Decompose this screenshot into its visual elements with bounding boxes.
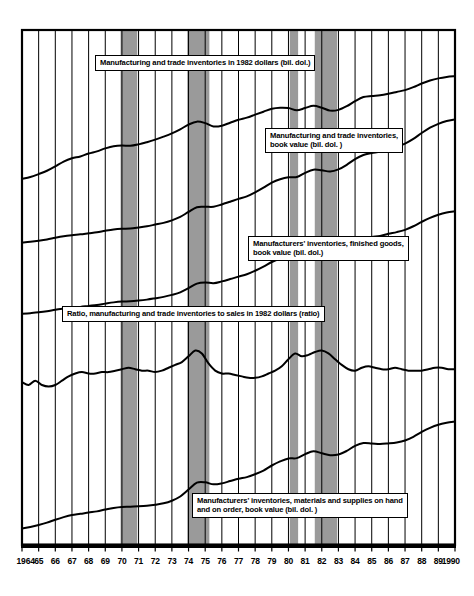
- x-axis-label-1968: 68: [84, 556, 93, 566]
- x-axis-label-1988: 88: [417, 556, 426, 566]
- x-axis-label-1975: 75: [201, 556, 210, 566]
- x-axis-label-1982: 82: [317, 556, 326, 566]
- x-axis-bar: [21, 544, 456, 549]
- x-axis-label-1979: 79: [267, 556, 276, 566]
- series-label-mfr-inv-materials-supplies: Manufacturers' inventories, materials an…: [192, 493, 408, 518]
- x-axis-label-1981: 81: [301, 556, 310, 566]
- inventory-chart-figure: 1964656667686970717273747576777879808182…: [0, 0, 474, 596]
- label-line: book value (bil. dol.): [253, 248, 404, 257]
- x-axis-label-1978: 78: [251, 556, 260, 566]
- x-axis-label-1990: 1990: [442, 556, 460, 566]
- x-axis-label-1985: 85: [367, 556, 376, 566]
- x-axis-label-1976: 76: [217, 556, 226, 566]
- recession-band-recession-1969-1970: [121, 30, 138, 545]
- x-axis-label-1969: 69: [101, 556, 110, 566]
- x-axis-label-1971: 71: [134, 556, 143, 566]
- x-axis-label-1980: 80: [284, 556, 293, 566]
- x-axis-label-1973: 73: [167, 556, 176, 566]
- x-axis-tick-marks: [22, 548, 455, 552]
- x-axis-label-1986: 86: [384, 556, 393, 566]
- x-axis-label-1970: 70: [117, 556, 126, 566]
- recession-band-recession-1980: [290, 30, 298, 545]
- label-line: and on order, book value (bil. dol. ): [197, 505, 403, 514]
- x-axis-label-1966: 66: [51, 556, 60, 566]
- x-axis-label-1974: 74: [184, 556, 193, 566]
- label-line: Manufacturing and trade inventories in 1…: [100, 58, 310, 67]
- vertical-gridlines-group: [22, 30, 455, 545]
- series-label-mfr-inv-finished-goods: Manufacturers' inventories, finished goo…: [248, 236, 409, 261]
- label-line: book value (bil. dol. ): [270, 140, 398, 149]
- label-line: Manufacturers' inventories, materials an…: [197, 496, 403, 505]
- series-label-inventory-to-sales-ratio: Ratio, manufacturing and trade inventori…: [62, 306, 325, 322]
- x-axis-label-1977: 77: [234, 556, 243, 566]
- x-axis-label-1972: 72: [151, 556, 160, 566]
- label-line: Manufacturing and trade inventories,: [270, 131, 398, 140]
- label-line: Manufacturers' inventories, finished goo…: [253, 239, 404, 248]
- series-label-mfg-trade-inv-1982-dollars: Manufacturing and trade inventories in 1…: [95, 55, 315, 71]
- x-axis-label-1984: 84: [351, 556, 360, 566]
- label-line: Ratio, manufacturing and trade inventori…: [67, 309, 320, 318]
- x-axis-label-1983: 83: [334, 556, 343, 566]
- series-label-mfg-trade-inv-book-value: Manufacturing and trade inventories, boo…: [265, 128, 403, 153]
- x-axis-label-1987: 87: [401, 556, 410, 566]
- x-axis-label-1965: 65: [34, 556, 43, 566]
- x-axis-label-1967: 67: [68, 556, 77, 566]
- x-axis-label-1964: 1964: [17, 556, 35, 566]
